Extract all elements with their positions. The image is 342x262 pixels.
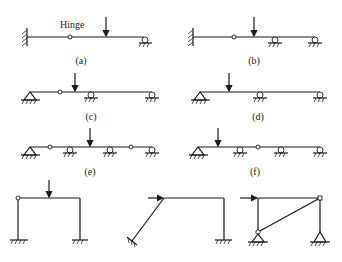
hinge-icon — [232, 35, 236, 39]
hinge-icon — [16, 196, 20, 200]
structures-diagram: Hinge (a) (b) — [0, 0, 342, 262]
label-e: (e) — [84, 166, 95, 178]
hinge-icon — [256, 145, 260, 149]
roller-support-icon — [308, 37, 322, 47]
hinge-annotation: Hinge — [60, 19, 85, 30]
frame-inclined-leg — [127, 198, 232, 247]
roller-support-icon — [103, 147, 117, 157]
roller-support-icon — [139, 37, 152, 47]
hinge-icon — [129, 145, 133, 149]
frame-portal-fixed — [10, 180, 88, 244]
label-d: (d) — [252, 111, 264, 123]
pin-support-icon — [21, 92, 40, 104]
label-a: (a) — [75, 55, 86, 67]
pin-support-icon — [189, 147, 208, 159]
hinge-icon — [58, 90, 62, 94]
fixed-support-icon — [215, 240, 232, 244]
diagonal-member — [258, 198, 320, 232]
roller-support-icon — [268, 37, 282, 47]
roller-support-icon — [313, 92, 327, 102]
hinge-icon — [68, 35, 72, 39]
hinge-icon — [318, 196, 322, 200]
pin-support-icon — [191, 92, 210, 104]
beam-e — [21, 128, 159, 159]
label-c: (c) — [85, 111, 96, 123]
beam-c — [21, 73, 159, 104]
beam-b — [188, 17, 322, 47]
frame-braced — [240, 196, 330, 246]
beam-d — [191, 73, 327, 104]
beam-a — [22, 17, 152, 47]
hinge-icon — [48, 145, 52, 149]
pin-support-icon — [248, 234, 268, 246]
roller-support-icon — [274, 147, 288, 157]
roller-support-icon — [233, 147, 247, 157]
fixed-support-icon — [72, 240, 88, 244]
pin-support-icon — [21, 147, 40, 159]
label-f: (f) — [250, 166, 260, 178]
fixed-support-icon — [127, 237, 137, 247]
roller-support-icon — [63, 147, 77, 157]
pin-support-icon — [310, 232, 330, 246]
roller-support-icon — [313, 147, 327, 157]
fixed-support-icon — [10, 240, 28, 244]
roller-support-icon — [84, 92, 98, 102]
roller-support-icon — [253, 92, 267, 102]
label-b: (b) — [248, 55, 260, 67]
roller-support-icon — [145, 147, 159, 157]
roller-support-icon — [145, 92, 159, 102]
beam-f — [189, 128, 327, 159]
